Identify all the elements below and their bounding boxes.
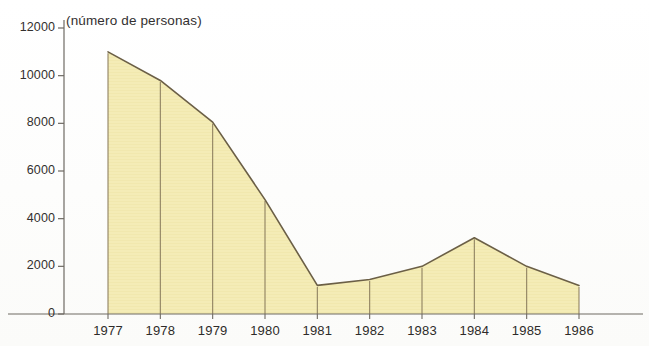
x-tick-label-1986: 1986 [564,323,594,338]
x-tick-label-1977: 1977 [93,323,123,338]
x-tick-label-1978: 1978 [145,323,175,338]
area-chart-plot [0,0,649,346]
x-tick-label-1979: 1979 [198,323,228,338]
y-tick-label-4000: 4000 [27,211,55,225]
y-tick-label-10000: 10000 [20,68,55,82]
x-tick-label-1984: 1984 [459,323,489,338]
y-tick-label-2000: 2000 [27,258,55,272]
x-tick-label-1985: 1985 [512,323,542,338]
x-tick-label-1980: 1980 [250,323,280,338]
area-fill-group [108,52,579,314]
y-tick-label-8000: 8000 [27,115,55,129]
y-tick-label-12000: 12000 [20,20,55,34]
x-tick-label-1982: 1982 [355,323,385,338]
x-tick-label-1983: 1983 [407,323,437,338]
y-tick-label-0: 0 [48,306,55,320]
area-fill [108,52,579,314]
chart-container: (número de personas) 0200040006000800010… [0,0,649,346]
x-tick-label-1981: 1981 [302,323,332,338]
y-tick-label-6000: 6000 [27,163,55,177]
